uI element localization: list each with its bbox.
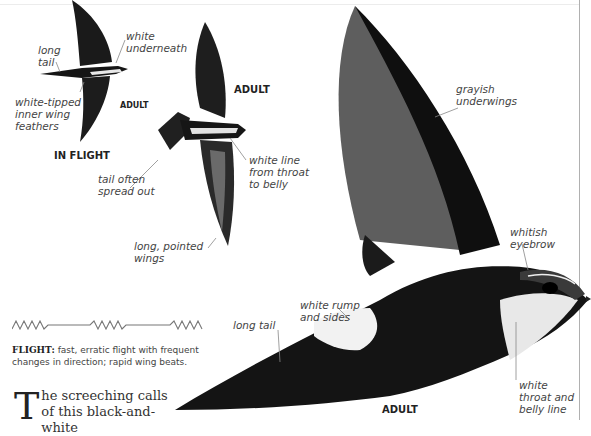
label-white-rump-sides: white rump and sides [300, 299, 360, 323]
body-paragraph: The screeching calls of this black-and-w… [14, 388, 184, 436]
large-bird-illustration [175, 6, 591, 410]
caption-in-flight: IN FLIGHT [54, 150, 110, 161]
flight-heading: FLIGHT: [12, 345, 55, 355]
caption-adult-small: ADULT [120, 101, 149, 110]
label-grayish-underwings: grayish underwings [456, 83, 517, 107]
drop-cap: T [14, 390, 39, 422]
label-long-tail-large: long tail [233, 319, 275, 331]
label-tail-spread-out: tail often spread out [98, 173, 155, 197]
caption-adult-large: ADULT [382, 404, 418, 415]
label-white-line-throat-belly: white line from throat to belly [249, 154, 309, 190]
flight-description: FLIGHT: fast, erratic flight with freque… [12, 344, 222, 368]
label-long-pointed-wings: long, pointed wings [134, 240, 203, 264]
label-white-underneath: white underneath [126, 30, 187, 54]
flight-pattern-zigzag-icon [12, 318, 212, 332]
middle-flying-bird-illustration [158, 22, 246, 246]
label-long-tail-small: long tail [38, 44, 61, 68]
caption-adult-middle: ADULT [234, 84, 270, 95]
label-whitish-eyebrow: whitish eyebrow [510, 226, 555, 250]
body-text: he screeching calls of this black-and-wh… [41, 388, 167, 435]
label-white-throat-belly-line: white throat and belly line [519, 379, 574, 415]
label-white-tipped-feathers: white-tipped inner wing feathers [15, 96, 81, 132]
